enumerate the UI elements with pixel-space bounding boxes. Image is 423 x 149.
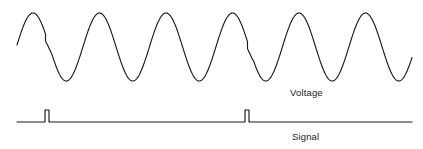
waveform-diagram: Voltage Signal (0, 0, 423, 149)
waveform-canvas (0, 0, 423, 149)
signal-trace-group (17, 110, 412, 122)
voltage-trace-group (17, 13, 412, 81)
voltage-series-label: Voltage (290, 87, 323, 98)
signal-series-label: Signal (292, 131, 319, 142)
voltage-waveform-trace (17, 13, 412, 81)
signal-pulse-train-trace (17, 110, 412, 122)
